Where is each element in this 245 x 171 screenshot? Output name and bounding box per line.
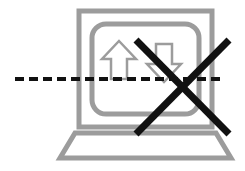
diagram-canvas <box>0 0 245 171</box>
pictogram-svg <box>0 0 245 171</box>
